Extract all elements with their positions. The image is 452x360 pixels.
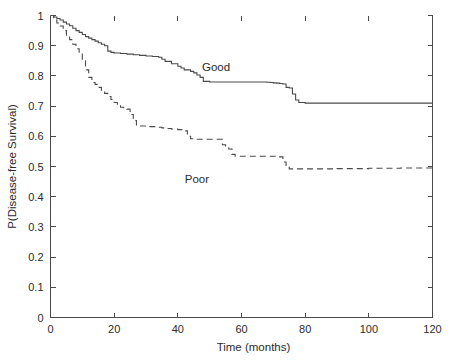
y-axis-title: P(Disease-free Survival) bbox=[6, 104, 18, 229]
y-tick-label: 0.3 bbox=[28, 221, 43, 233]
y-tick-label: 0.9 bbox=[28, 40, 43, 52]
x-tick-label: 0 bbox=[47, 323, 53, 335]
chart-background bbox=[0, 0, 452, 360]
series-label-good: Good bbox=[202, 61, 230, 73]
y-tick-label: 0.8 bbox=[28, 70, 43, 82]
y-tick-label: 0 bbox=[37, 312, 43, 324]
y-tick-label: 0.5 bbox=[28, 161, 43, 173]
x-tick-label: 20 bbox=[108, 323, 120, 335]
y-tick-label: 0.1 bbox=[28, 281, 43, 293]
x-axis-title: Time (months) bbox=[217, 341, 291, 353]
x-tick-label: 80 bbox=[299, 323, 311, 335]
y-tick-label: 1 bbox=[37, 10, 43, 22]
survival-chart: 00.10.20.30.40.50.60.70.80.91 0204060801… bbox=[0, 0, 452, 360]
y-tick-label: 0.6 bbox=[28, 130, 43, 142]
x-tick-label: 100 bbox=[360, 323, 378, 335]
y-tick-label: 0.7 bbox=[28, 100, 43, 112]
chart-page: 00.10.20.30.40.50.60.70.80.91 0204060801… bbox=[0, 0, 452, 360]
x-tick-label: 60 bbox=[235, 323, 247, 335]
y-tick-label: 0.2 bbox=[28, 251, 43, 263]
y-tick-label: 0.4 bbox=[28, 191, 43, 203]
series-label-poor: Poor bbox=[185, 173, 209, 185]
x-tick-label: 120 bbox=[423, 323, 441, 335]
x-tick-label: 40 bbox=[172, 323, 184, 335]
